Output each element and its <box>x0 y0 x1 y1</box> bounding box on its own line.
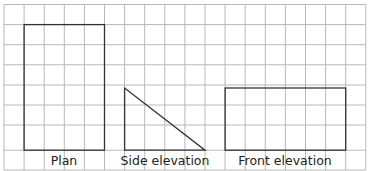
grid-lines <box>4 5 366 171</box>
plan-label: Plan <box>51 151 78 170</box>
side-elevation-label: Side elevation <box>121 151 210 170</box>
front-elevation-label: Front elevation <box>238 151 331 170</box>
grid-diagram <box>0 0 368 171</box>
